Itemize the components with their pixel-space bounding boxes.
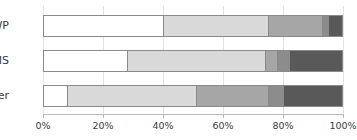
tick-mark-80% bbox=[283, 114, 284, 118]
bar-segment[interactable] bbox=[163, 15, 268, 37]
bar-segment[interactable] bbox=[268, 15, 322, 37]
plot-area bbox=[43, 6, 343, 114]
bar-segment[interactable] bbox=[328, 15, 343, 37]
bar-segment[interactable] bbox=[43, 85, 67, 107]
bar-row[interactable] bbox=[43, 85, 343, 107]
x-tick-label: 80% bbox=[272, 120, 293, 131]
x-tick-label: 20% bbox=[92, 120, 113, 131]
bar-segment[interactable] bbox=[43, 50, 127, 72]
bar-segment[interactable] bbox=[283, 85, 343, 107]
bar-segment[interactable] bbox=[277, 50, 289, 72]
category-label: CMS bbox=[0, 54, 9, 67]
bar-segment[interactable] bbox=[196, 85, 268, 107]
tick-mark-20% bbox=[103, 114, 104, 118]
gridline-100% bbox=[343, 6, 344, 114]
bar-row[interactable] bbox=[43, 50, 343, 72]
bar-segment[interactable] bbox=[67, 85, 196, 107]
x-tick-label: 0% bbox=[35, 120, 50, 131]
bar-segment[interactable] bbox=[265, 50, 277, 72]
tick-mark-0% bbox=[43, 114, 44, 118]
x-axis-line bbox=[43, 114, 343, 115]
bar-row[interactable] bbox=[43, 15, 343, 37]
bar-segment[interactable] bbox=[127, 50, 265, 72]
bar-segment[interactable] bbox=[268, 85, 283, 107]
category-label: Other bbox=[0, 89, 9, 102]
bar-segment[interactable] bbox=[289, 50, 343, 72]
x-tick-label: 60% bbox=[212, 120, 233, 131]
x-tick-label: 40% bbox=[152, 120, 173, 131]
stacked-bar-chart: 0%20%40%60%80%100% WPCMSOther bbox=[0, 0, 357, 140]
tick-mark-60% bbox=[223, 114, 224, 118]
tick-mark-40% bbox=[163, 114, 164, 118]
category-label: WP bbox=[0, 19, 9, 32]
bar-segment[interactable] bbox=[43, 15, 163, 37]
tick-mark-100% bbox=[343, 114, 344, 118]
x-tick-label: 100% bbox=[329, 120, 356, 131]
